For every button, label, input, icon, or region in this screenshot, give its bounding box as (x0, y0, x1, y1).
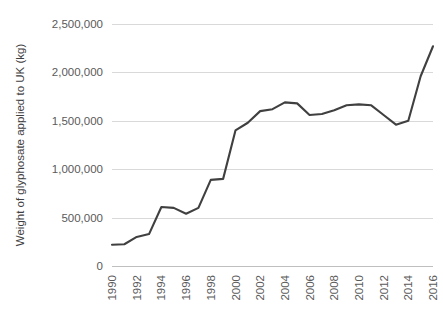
y-axis-title: Weight of glyphosate applied to UK (kg) (14, 44, 26, 247)
y-axis-tick-label: 0 (97, 260, 103, 272)
line-chart: 0500,0001,000,0001,500,0002,000,0002,500… (0, 0, 443, 320)
x-axis-tick-label: 2000 (230, 275, 242, 301)
x-axis-tick-label: 2014 (402, 274, 414, 300)
x-axis-tick-label: 2010 (353, 275, 365, 301)
y-axis-tick-label: 2,500,000 (52, 18, 103, 30)
y-axis-tick-label: 1,000,000 (52, 163, 103, 175)
x-axis-tick-label: 1996 (180, 275, 192, 301)
x-axis-tick-label: 1992 (131, 275, 143, 301)
y-axis-tick-label: 1,500,000 (52, 115, 103, 127)
x-axis-tick-label: 2002 (254, 275, 266, 301)
y-axis-tick-label: 500,000 (61, 212, 103, 224)
x-axis-tick-label: 2004 (279, 274, 291, 300)
x-axis-tick-label: 1994 (155, 274, 167, 300)
x-axis-tick-label: 1998 (205, 275, 217, 301)
x-axis-tick-label: 1990 (106, 275, 118, 301)
x-axis-tick-label: 2012 (378, 275, 390, 301)
x-axis-tick-label: 2016 (427, 275, 439, 301)
x-axis-tick-label: 2008 (328, 275, 340, 301)
chart-page: 0500,0001,000,0001,500,0002,000,0002,500… (0, 0, 443, 320)
y-axis-tick-label: 2,000,000 (52, 66, 103, 78)
data-series-line (112, 46, 433, 244)
x-axis-tick-label: 2006 (304, 275, 316, 301)
